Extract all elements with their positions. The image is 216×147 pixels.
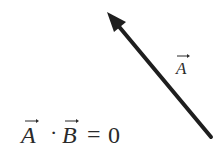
vector-a-arrow <box>107 12 211 137</box>
equation-left-operand: A <box>19 122 36 147</box>
equation-right-operand: B <box>62 122 77 147</box>
vector-a-label: A <box>175 54 190 78</box>
vector-diagram: A A · B = 0 <box>0 0 216 147</box>
equation-equals: = <box>87 121 101 147</box>
equation-operator: · <box>50 120 57 145</box>
equation-result: 0 <box>108 122 120 147</box>
dot-product-equation: A · B = 0 <box>19 119 120 147</box>
vector-a-label-text: A <box>175 59 187 78</box>
